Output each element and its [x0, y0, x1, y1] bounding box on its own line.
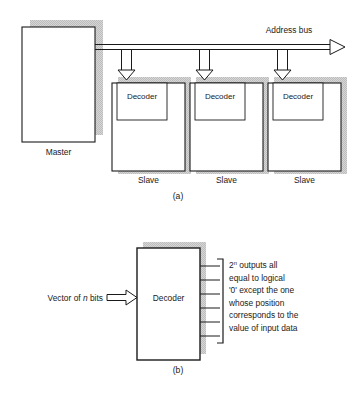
annotation-line-4: whose position — [228, 298, 285, 308]
slave-node-1: Decoder Slave — [112, 83, 185, 185]
decoder-label-1: Decoder — [127, 92, 158, 101]
master-label: Master — [46, 147, 72, 157]
part-b: Vector of n bits Decoder 2n outputs all … — [48, 242, 299, 375]
input-label-post: bits — [88, 293, 103, 303]
slave-label-2: Slave — [216, 175, 237, 185]
annotation-line-2: equal to logical — [229, 273, 285, 283]
output-annotation: 2n outputs all equal to logical '0' exce… — [228, 260, 299, 333]
input-arrow-icon — [107, 290, 137, 305]
decoder-box-1 — [117, 83, 167, 120]
bus-branch-1 — [118, 50, 135, 81]
slave-label-1: Slave — [138, 175, 159, 185]
figure-root: Master Address bus — [0, 0, 357, 394]
input-vector-label: Vector of n bits — [48, 293, 103, 303]
annotation-rest-1: outputs all — [237, 260, 278, 270]
annotation-line-5: corresponds to the — [229, 310, 299, 320]
bus-branch-3 — [274, 50, 291, 81]
decoder-b-box — [137, 248, 200, 360]
address-bus-label: Address bus — [266, 25, 313, 35]
caption-b: (b) — [173, 365, 184, 375]
decoder-box-2 — [195, 83, 245, 120]
decoder-label-3: Decoder — [283, 92, 314, 101]
bus-arrowhead-icon — [330, 40, 345, 55]
bus-branch-2 — [196, 50, 213, 81]
master-box — [22, 27, 95, 142]
slave-node-3: Decoder Slave — [268, 83, 341, 185]
decoder-figure-svg: Master Address bus — [0, 0, 357, 394]
annotation-line-3: '0' except the one — [229, 285, 294, 295]
decoder-box-3 — [273, 83, 323, 120]
output-group-bracket — [217, 259, 223, 343]
decoder-label-2: Decoder — [205, 92, 236, 101]
caption-a: (a) — [173, 191, 184, 201]
annotation-line-1: 2n outputs all — [229, 260, 278, 270]
input-label-pre: Vector of — [48, 293, 83, 303]
slave-node-2: Decoder Slave — [190, 83, 263, 185]
part-a: Master Address bus — [22, 20, 347, 201]
slave-label-3: Slave — [294, 175, 315, 185]
annotation-line-6: value of input data — [229, 323, 298, 333]
decoder-b-label: Decoder — [153, 293, 185, 303]
